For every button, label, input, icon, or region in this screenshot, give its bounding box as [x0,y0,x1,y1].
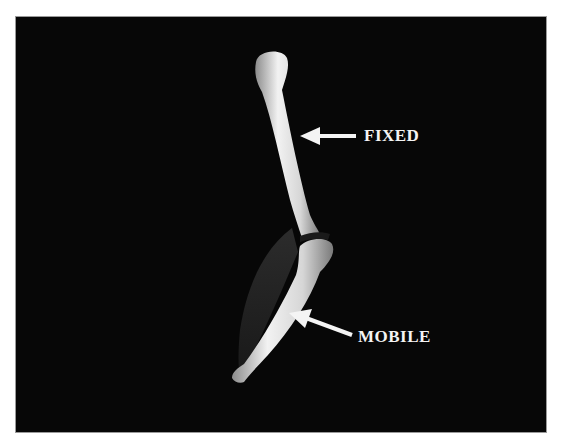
mobile-arrow-icon [289,309,352,335]
fixed-bone [255,52,320,238]
fixed-arrow-icon [300,127,356,145]
mobile-label: MOBILE [358,327,431,347]
fixed-label: FIXED [364,126,419,146]
bone-illustration [0,0,563,447]
